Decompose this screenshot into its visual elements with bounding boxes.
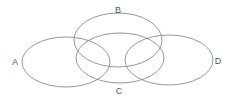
set-b-label: B bbox=[115, 5, 121, 15]
set-b: B bbox=[74, 5, 162, 67]
set-a-label: A bbox=[12, 57, 18, 67]
set-d-label: D bbox=[215, 56, 222, 66]
set-d-ellipse bbox=[125, 35, 213, 85]
set-d: D bbox=[125, 35, 222, 85]
set-c: C bbox=[76, 33, 164, 96]
set-a: A bbox=[12, 37, 110, 87]
venn-diagram: A B C D bbox=[0, 0, 233, 99]
set-c-label: C bbox=[116, 86, 123, 96]
